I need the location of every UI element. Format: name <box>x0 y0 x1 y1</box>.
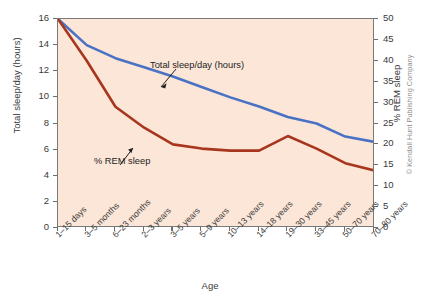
y-axis-right-tick-mark <box>374 123 378 124</box>
x-axis-title: Age <box>150 280 270 291</box>
y-axis-left-tick-mark <box>53 123 57 124</box>
y-axis-right-tick-mark <box>374 102 378 103</box>
y-axis-left-tick-mark <box>53 70 57 71</box>
annotation-rem-sleep-label: % REM sleep <box>94 156 150 166</box>
y-axis-left-tick-mark <box>53 18 57 19</box>
y-axis-left-tick-mark <box>53 149 57 150</box>
plot-area <box>57 18 374 227</box>
y-axis-left-tick-label: 4 <box>19 170 49 179</box>
y-axis-left-tick-label: 12 <box>19 65 49 74</box>
y-axis-left-tick-label: 2 <box>19 196 49 205</box>
y-axis-left-tick-label: 6 <box>19 144 49 153</box>
y-axis-right-tick-mark <box>374 164 378 165</box>
y-axis-right-tick-mark <box>374 81 378 82</box>
annotation-total-sleep-label: Total sleep/day (hours) <box>150 60 244 70</box>
y-axis-right-tick-mark <box>374 39 378 40</box>
y-axis-right-tick-mark <box>374 18 378 19</box>
y-axis-left-tick-mark <box>53 175 57 176</box>
y-axis-right-title: % REM sleep <box>391 34 402 154</box>
y-axis-left-tick-label: 14 <box>19 39 49 48</box>
y-axis-left-tick-mark <box>53 201 57 202</box>
sleep-chart-figure: Total sleep/day (hours) % REM sleep 0246… <box>0 0 422 304</box>
y-axis-right-tick-mark <box>374 185 378 186</box>
y-axis-right-tick-mark <box>374 143 378 144</box>
y-axis-right-tick-label: 50 <box>383 13 413 22</box>
line-total-sleep <box>58 19 374 142</box>
y-axis-right-tick-mark <box>374 60 378 61</box>
y-axis-left-tick-label: 0 <box>19 222 49 231</box>
y-axis-left-tick-label: 8 <box>19 118 49 127</box>
y-axis-left-tick-label: 10 <box>19 91 49 100</box>
y-axis-left-title: Total sleep/day (hours) <box>11 16 22 156</box>
y-axis-left-tick-mark <box>53 96 57 97</box>
y-axis-left-tick-mark <box>53 44 57 45</box>
y-axis-left-tick-label: 16 <box>19 13 49 22</box>
line-rem-sleep <box>58 19 374 170</box>
copyright-notice: © Kendall Hunt Publishing Company <box>405 45 414 185</box>
series-canvas <box>58 19 374 227</box>
